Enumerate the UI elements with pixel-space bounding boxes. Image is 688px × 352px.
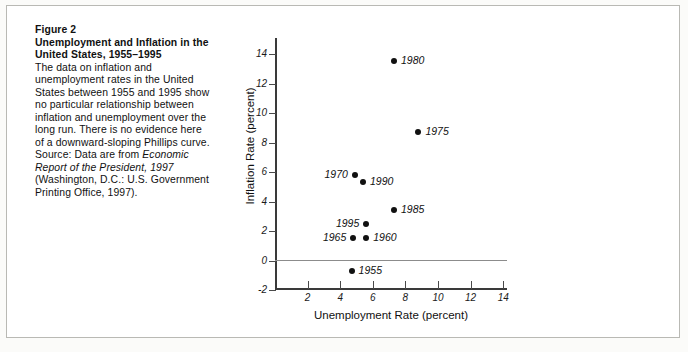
x-tick-label-14: 14 [491,292,515,303]
y-tick-14 [269,54,276,55]
y-tick--2 [269,290,276,291]
scatter-chart: Inflation Rate (percent) Unemployment Ra… [222,20,682,340]
x-tick-label-4: 4 [328,292,352,303]
data-point-label-1975: 1975 [425,125,448,137]
y-tick-12 [269,84,276,85]
source-prefix: Source: Data are from [35,149,142,160]
data-point-label-1990: 1990 [370,175,393,187]
x-tick-6 [373,281,374,289]
x-tick-label-10: 10 [426,292,450,303]
y-tick-0 [269,261,276,262]
figure-number: Figure 2 [35,24,213,37]
data-point-1985 [391,207,397,213]
data-point-1995 [363,221,369,227]
figure-caption: Figure 2 Unemployment and Inflation in t… [35,24,213,199]
y-tick-4 [269,202,276,203]
figure-title: Unemployment and Inflation in the United… [35,37,213,62]
x-tick-label-6: 6 [361,292,385,303]
x-tick-14 [503,281,504,289]
data-point-label-1980: 1980 [401,54,424,66]
x-tick-4 [340,281,341,289]
figure-description: The data on inflation and unemployment r… [35,62,213,200]
data-point-1970 [352,172,358,178]
y-tick-10 [269,113,276,114]
y-tick-label--2: -2 [239,284,267,295]
x-tick-2 [308,281,309,289]
x-tick-label-8: 8 [393,292,417,303]
x-tick-10 [438,281,439,289]
data-point-label-1985: 1985 [401,203,424,215]
data-point-1960 [363,235,369,241]
data-point-1975 [415,129,421,135]
y-tick-label-14: 14 [239,48,267,59]
x-tick-12 [471,281,472,289]
x-tick-label-2: 2 [296,292,320,303]
figure-description-text: The data on inflation and unemployment r… [35,62,210,148]
x-tick-label-12: 12 [459,292,483,303]
zero-reference-line [275,260,507,261]
y-tick-label-10: 10 [239,107,267,118]
y-tick-label-8: 8 [239,137,267,148]
y-tick-2 [269,231,276,232]
source-suffix: (Washington, D.C.: U.S. Government Print… [35,174,209,198]
y-tick-6 [269,172,276,173]
data-point-label-1970: 1970 [325,168,348,180]
y-tick-8 [269,143,276,144]
y-tick-label-6: 6 [239,166,267,177]
data-point-label-1965: 1965 [323,231,346,243]
y-tick-label-4: 4 [239,196,267,207]
y-axis-line [275,38,277,290]
x-axis-title: Unemployment Rate (percent) [270,309,512,321]
data-point-1980 [391,58,397,64]
data-point-1965 [350,235,356,241]
data-point-label-1955: 1955 [359,264,382,276]
x-axis-line [275,288,507,290]
x-tick-8 [405,281,406,289]
data-point-1955 [349,268,355,274]
figure-page: Figure 2 Unemployment and Inflation in t… [0,0,688,352]
y-tick-label-2: 2 [239,225,267,236]
figure-frame: Figure 2 Unemployment and Inflation in t… [6,5,680,338]
y-tick-label-12: 12 [239,78,267,89]
data-point-1990 [360,179,366,185]
data-point-label-1960: 1960 [373,231,396,243]
y-tick-label-0: 0 [239,255,267,266]
data-point-label-1995: 1995 [336,217,359,229]
